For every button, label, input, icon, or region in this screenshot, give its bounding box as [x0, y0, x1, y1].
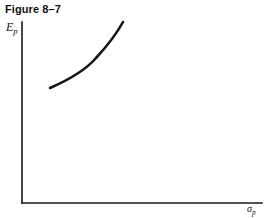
figure-container: Figure 8–7 Ep σp	[0, 0, 267, 218]
x-axis-label: σp	[247, 204, 256, 217]
x-axis-subscript: p	[252, 209, 256, 217]
y-axis-subscript: p	[13, 26, 17, 36]
plot-area	[0, 0, 267, 218]
y-axis-label: Ep	[6, 21, 18, 36]
efficient-frontier-curve	[50, 22, 123, 88]
